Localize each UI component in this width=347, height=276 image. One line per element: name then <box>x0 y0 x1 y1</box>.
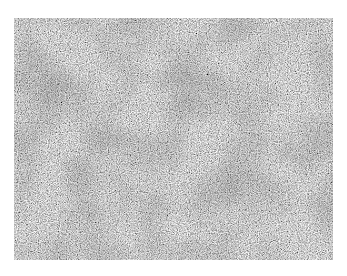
texture-graphic <box>14 18 333 260</box>
texture-image <box>14 18 333 260</box>
